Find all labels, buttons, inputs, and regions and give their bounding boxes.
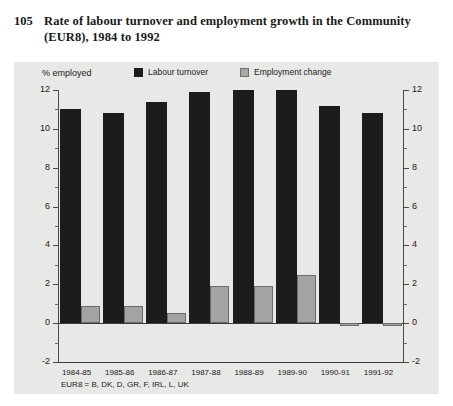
bar-group [274, 90, 317, 362]
chart-footnote: EUR8 = B, DK, D, GR, F, IRL, L, UK [61, 380, 189, 389]
y-axis-tick-label-left: 8 [22, 163, 50, 172]
y-axis-tick-label-left: 10 [22, 124, 50, 133]
bar-group [231, 90, 274, 362]
x-axis-tick-label: 1989-90 [271, 368, 314, 377]
y-axis-tick-label-right: 4 [412, 240, 438, 249]
y-axis-tick-label-right: 2 [412, 279, 438, 288]
legend-label-labour-turnover: Labour turnover [148, 67, 208, 77]
bar-group [144, 90, 187, 362]
bar-employment-change [210, 286, 229, 323]
y-axis-tick-right [404, 284, 409, 285]
plot-area [58, 90, 403, 362]
bar-group [58, 90, 101, 362]
legend-label-employment-change: Employment change [254, 67, 332, 77]
y-axis-tick-right [404, 109, 407, 110]
axis-end-cap [404, 90, 409, 91]
x-axis-tick-label: 1984-85 [55, 368, 98, 377]
bar-labour-turnover [189, 92, 210, 323]
y-axis-tick-label-left: 0 [22, 318, 50, 327]
bar-employment-change [81, 306, 100, 323]
axis-end-cap [404, 362, 409, 363]
bar-group [187, 90, 230, 362]
bar-labour-turnover [103, 113, 124, 323]
y-axis-tick-right [404, 343, 407, 344]
y-axis-tick-label-left: 6 [22, 202, 50, 211]
bar-labour-turnover [60, 109, 81, 323]
figure-number: 105 [14, 13, 44, 29]
y-axis-tick-right [404, 187, 407, 188]
chart-panel: % employed Labour turnover Employment ch… [14, 62, 439, 394]
bar-labour-turnover [362, 113, 383, 323]
y-axis-tick-label-left: -2 [22, 357, 50, 366]
bar-employment-change [297, 275, 316, 324]
y-axis-unit-label: % employed [42, 68, 92, 78]
y-axis-tick-label-right: 10 [412, 124, 438, 133]
figure-page: 105 Rate of labour turnover and employme… [0, 0, 453, 406]
legend-item-employment-change: Employment change [240, 67, 332, 77]
x-axis-tick-label: 1991-92 [357, 368, 400, 377]
page-title: Rate of labour turnover and employment g… [44, 13, 434, 45]
x-axis-tick-label: 1990-91 [314, 368, 357, 377]
y-axis-tick-label-right: -2 [412, 357, 438, 366]
bar-labour-turnover [146, 102, 167, 323]
y-axis-tick-label-left: 12 [22, 85, 50, 94]
bar-labour-turnover [276, 90, 297, 323]
bar-employment-change [383, 323, 402, 326]
bar-labour-turnover [233, 90, 254, 323]
x-axis-tick-label: 1987-88 [184, 368, 227, 377]
bar-labour-turnover [319, 106, 340, 324]
y-axis-tick-label-right: 6 [412, 202, 438, 211]
y-axis-tick-right [404, 168, 409, 169]
bar-employment-change [167, 313, 186, 323]
x-axis-tick-label: 1988-89 [228, 368, 271, 377]
y-axis-tick-right [404, 148, 407, 149]
y-axis-tick-right [404, 304, 407, 305]
y-axis-tick-right [404, 265, 407, 266]
axis-bottom-line [58, 362, 404, 363]
y-axis-tick-label-left: 4 [22, 240, 50, 249]
figure-title-block: 105 Rate of labour turnover and employme… [14, 13, 434, 45]
y-axis-tick-right [404, 323, 409, 324]
y-axis-tick-right [404, 129, 409, 130]
y-axis-tick-right [404, 207, 409, 208]
y-axis-tick-right [404, 226, 407, 227]
bar-group [101, 90, 144, 362]
y-axis-tick-label-right: 8 [412, 163, 438, 172]
legend-swatch-icon-employment-change [240, 68, 249, 77]
bar-group [317, 90, 360, 362]
y-axis-tick-label-right: 12 [412, 85, 438, 94]
y-axis-tick-label-left: 2 [22, 279, 50, 288]
bar-group [360, 90, 403, 362]
bar-employment-change [340, 323, 359, 326]
y-axis-tick-label-right: 0 [412, 318, 438, 327]
legend-item-labour-turnover: Labour turnover [134, 67, 208, 77]
bar-employment-change [124, 306, 143, 323]
x-axis-tick-label: 1986-87 [141, 368, 184, 377]
y-axis-tick-right [404, 245, 409, 246]
x-axis-tick-label: 1985-86 [98, 368, 141, 377]
bar-employment-change [254, 286, 273, 323]
chart-legend: % employed Labour turnover Employment ch… [14, 66, 439, 82]
legend-swatch-icon-labour-turnover [134, 68, 143, 77]
